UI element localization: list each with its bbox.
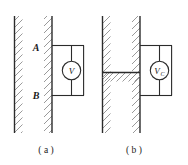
plate-hatch xyxy=(44,16,52,133)
panel-b-dielectric-slab xyxy=(103,73,141,82)
plate-label-a: A xyxy=(32,42,40,53)
plate-label-b: B xyxy=(32,90,40,101)
panel-a-plate-right xyxy=(44,16,52,133)
voltmeter-v[interactable]: V xyxy=(62,61,80,79)
capacitor-figure: A B V ( a ) xyxy=(0,0,188,165)
panel-b-caption: ( b ) xyxy=(126,145,142,156)
plate-hatch xyxy=(15,16,23,133)
panel-a-plate-left xyxy=(15,16,23,133)
slab-hatch xyxy=(103,73,141,82)
panel-a-caption: ( a ) xyxy=(38,145,53,156)
voltmeter-vc[interactable]: V C xyxy=(150,61,168,79)
figure-container: A B V ( a ) xyxy=(0,0,188,165)
